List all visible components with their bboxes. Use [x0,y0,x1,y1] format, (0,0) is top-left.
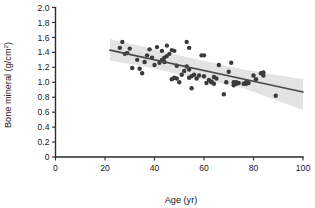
data-point [130,66,134,70]
y-axis-tick-label: 1.2 [38,62,50,72]
y-axis-ticks: 00.20.40.60.81.01.21.41.61.82.0 [38,3,56,163]
regression-line [110,50,303,92]
data-point [180,73,184,77]
data-point [172,49,176,53]
x-axis-tick-label: 40 [150,163,160,173]
y-axis-title-main: Bone mineral (g/cm [3,48,13,128]
data-point [192,73,196,77]
data-point [118,46,122,50]
data-point [236,81,240,85]
data-point [246,81,250,85]
bone-mineral-scatter-figure: 00.20.40.60.81.01.21.41.61.82.0 02040608… [0,0,315,208]
data-point [212,82,216,86]
data-point [251,73,255,77]
scatter-plot-canvas: 00.20.40.60.81.01.21.41.61.82.0 02040608… [0,0,315,208]
y-axis-tick-label: 1.4 [38,47,50,57]
y-axis-tick-label: 1.0 [38,77,50,87]
data-point [142,60,146,64]
data-point [182,69,186,73]
y-axis-tick-label: 0.6 [38,107,50,117]
data-point [145,53,149,57]
x-axis-tick-label: 60 [199,163,209,173]
data-point [227,70,231,74]
y-axis-tick-label: 0.2 [38,137,50,147]
confidence-band-group [110,39,303,110]
y-axis-tick-label: 0 [45,152,50,162]
x-axis-tick-label: 100 [296,163,311,173]
x-axis-tick-label: 80 [249,163,259,173]
data-point [189,86,193,90]
y-axis-tick-label: 0.4 [38,122,50,132]
x-axis-title: Age (yr) [165,195,198,205]
data-point [165,43,169,47]
data-point [202,53,206,57]
data-point [229,61,233,65]
data-point [140,71,144,75]
data-point [177,80,181,84]
data-point [137,67,141,71]
y-axis-title: Bone mineral (g/cm2) [2,42,14,128]
data-point [128,46,132,50]
y-axis-tick-label: 0.8 [38,92,50,102]
data-point [147,47,151,51]
data-point [222,92,226,96]
y-axis-tick-label: 2.0 [38,3,50,13]
data-point [261,70,265,74]
x-axis-tick-label: 20 [100,163,110,173]
data-point [160,49,164,53]
data-point [155,45,159,49]
x-axis-ticks: 020406080100 [53,157,310,173]
confidence-band [110,39,303,110]
data-point [187,46,191,50]
y-axis-title-tail: ) [3,42,13,45]
y-axis-tick-label: 1.8 [38,18,50,28]
data-point [224,80,228,84]
data-point [175,76,179,80]
data-point [202,74,206,78]
regression-line-group [110,50,303,92]
data-point [197,73,201,77]
data-point [184,40,188,44]
data-point [274,94,278,98]
data-point [135,58,139,62]
data-point [120,40,124,44]
data-point [167,52,171,56]
data-point [217,63,221,67]
data-point [152,63,156,67]
data-point [214,76,218,80]
y-axis-tick-label: 1.6 [38,33,50,43]
x-axis-tick-label: 0 [53,163,58,173]
